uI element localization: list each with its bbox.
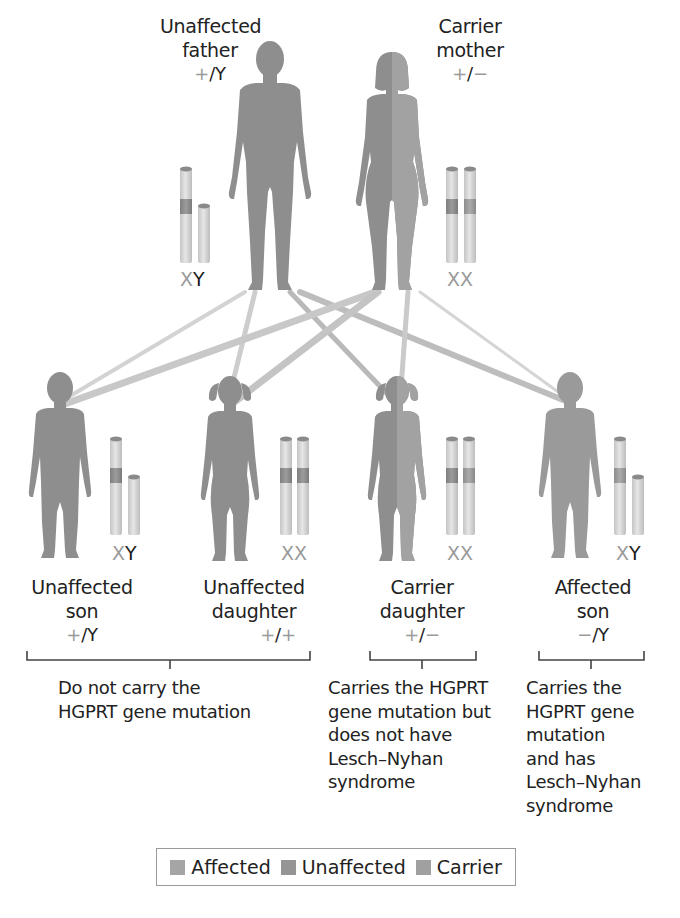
father-label-line1: Unaffected: [160, 14, 260, 38]
child-chromosomes-affected-son: [614, 437, 644, 536]
mother-genotype-allele2: −: [473, 63, 488, 84]
mother-chr-x2: X: [460, 268, 473, 290]
child-chromosomes-unaffected-son: [110, 437, 140, 536]
child-2-chr-x2: X: [294, 542, 307, 564]
bracket-non-carriers: [27, 651, 310, 669]
child-1-genotype: +/Y: [20, 623, 144, 647]
legend-label-affected: Affected: [191, 856, 270, 878]
child-figure-carrier-daughter: [368, 376, 426, 561]
legend-label-carrier: Carrier: [437, 856, 502, 878]
legend-item-carrier: Carrier: [416, 856, 502, 878]
mother-label: Carrier mother +/−: [425, 14, 515, 86]
mother-genotype-allele1: +: [452, 63, 467, 84]
child-2-genotype-a: +: [260, 624, 275, 645]
child-3-chr-x2: X: [460, 542, 473, 564]
child-3-genotype-b: −: [425, 624, 440, 645]
group-description-affected: Carries the HGPRT gene mutation and has …: [526, 676, 641, 817]
father-chromosome-label: XY: [180, 268, 205, 290]
legend-item-unaffected: Unaffected: [281, 856, 406, 878]
group-brackets: [27, 651, 644, 669]
bracket-affected: [539, 651, 644, 669]
father-chr-x: X: [180, 268, 193, 290]
child-2-genotype: +/+: [192, 623, 316, 647]
group-description-carrier: Carries the HGPRT gene mutation but does…: [328, 676, 491, 794]
child-4-chromosome-label: XY: [616, 542, 641, 564]
father-label: Unaffected father +/Y: [160, 14, 260, 86]
child-2-chromosome-label: XX: [281, 542, 307, 564]
child-4-chr-y: Y: [629, 542, 641, 564]
legend-label-unaffected: Unaffected: [302, 856, 406, 878]
child-figure-affected-son: [539, 372, 601, 558]
child-label-carrier-daughter: Carrier daughter +/−: [362, 575, 482, 647]
child-chromosomes-unaffected-daughter: [280, 437, 309, 536]
child-3-chromosome-label: XX: [447, 542, 473, 564]
child-label-unaffected-son: Unaffected son +/Y: [20, 575, 144, 647]
child-2-chr-x1: X: [281, 542, 294, 564]
child-1-genotype-b: /Y: [81, 624, 97, 645]
group-description-non-carriers: Do not carry the HGPRT gene mutation: [58, 676, 251, 723]
child-4-chr-x: X: [616, 542, 629, 564]
child-3-chr-x1: X: [447, 542, 460, 564]
father-genotype-allele: +: [194, 63, 209, 84]
father-genotype-rest: /Y: [209, 63, 225, 84]
legend-swatch-carrier: [416, 860, 431, 875]
father-chr-y: Y: [193, 268, 205, 290]
child-1-chromosome-label: XY: [112, 542, 137, 564]
child-4-genotype: −/Y: [538, 623, 648, 647]
child-figure-unaffected-daughter: [201, 376, 259, 561]
child-1-chr-x: X: [112, 542, 125, 564]
mother-genotype: +/−: [425, 62, 515, 86]
child-4-label-line2: son: [538, 599, 648, 623]
child-4-label-line1: Affected: [538, 575, 648, 599]
child-3-genotype-a: +: [404, 624, 419, 645]
mother-chr-x1: X: [447, 268, 460, 290]
mother-label-line2: mother: [425, 38, 515, 62]
child-label-affected-son: Affected son −/Y: [538, 575, 648, 647]
bracket-carrier: [370, 651, 476, 669]
child-1-genotype-a: +: [66, 624, 81, 645]
mother-chromosome-label: XX: [447, 268, 473, 290]
legend-item-affected: Affected: [170, 856, 270, 878]
child-2-label-line1: Unaffected: [192, 575, 316, 599]
child-label-unaffected-daughter: Unaffected daughter +/+: [192, 575, 316, 647]
child-3-label-line1: Carrier: [362, 575, 482, 599]
father-label-line2: father: [160, 38, 260, 62]
legend: Affected Unaffected Carrier: [156, 848, 516, 886]
child-3-label-line2: daughter: [362, 599, 482, 623]
child-1-label-line2: son: [20, 599, 144, 623]
child-1-label-line1: Unaffected: [20, 575, 144, 599]
child-3-genotype: +/−: [362, 623, 482, 647]
father-chromosomes: [180, 167, 210, 264]
child-2-label-line2: daughter: [192, 599, 316, 623]
child-chromosomes-carrier-daughter: [446, 437, 475, 536]
mother-label-line1: Carrier: [425, 14, 515, 38]
child-4-genotype-a: −: [577, 624, 592, 645]
legend-swatch-affected: [170, 860, 185, 875]
inheritance-lines: [60, 292, 572, 405]
child-2-genotype-b: +: [281, 624, 296, 645]
mother-figure: [356, 52, 428, 290]
child-4-genotype-b: /Y: [592, 624, 608, 645]
father-genotype: +/Y: [160, 62, 260, 86]
mother-chromosomes: [446, 167, 476, 264]
child-1-chr-y: Y: [125, 542, 137, 564]
legend-swatch-unaffected: [281, 860, 296, 875]
